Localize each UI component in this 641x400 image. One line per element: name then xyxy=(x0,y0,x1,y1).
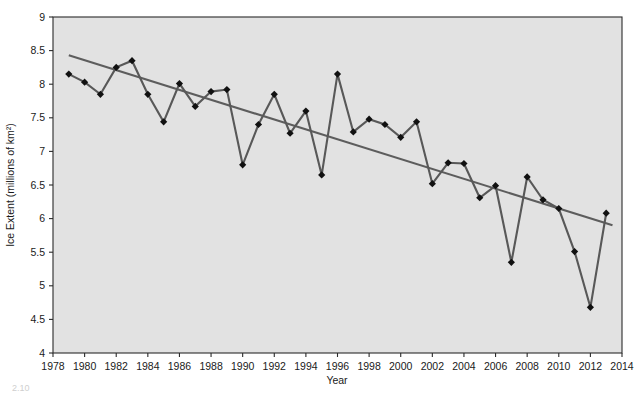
x-tick-label: 1994 xyxy=(294,360,318,372)
y-tick-label: 6 xyxy=(39,212,45,224)
y-tick-label: 5 xyxy=(39,279,45,291)
y-axis-title: Ice Extent (millions of km²) xyxy=(4,123,16,247)
x-tick-label: 1992 xyxy=(263,360,287,372)
chart-canvas: 44.555.566.577.588.59 197819801982198419… xyxy=(0,0,641,400)
y-tick-label: 4 xyxy=(39,347,45,359)
x-tick-label: 1984 xyxy=(136,360,160,372)
y-tick-label: 8.5 xyxy=(30,44,45,56)
y-tick-label: 7.5 xyxy=(30,111,45,123)
x-tick-label: 2004 xyxy=(452,360,476,372)
x-tick-label: 1998 xyxy=(357,360,381,372)
y-tick-label: 7 xyxy=(39,145,45,157)
x-tick-label: 1986 xyxy=(168,360,192,372)
x-tick-label: 1982 xyxy=(105,360,129,372)
x-tick-label: 2014 xyxy=(610,360,634,372)
x-tick-label: 1996 xyxy=(326,360,350,372)
x-tick-label: 2002 xyxy=(421,360,445,372)
y-tick-label: 9 xyxy=(39,11,45,23)
y-tick-label: 8 xyxy=(39,78,45,90)
x-tick-label: 2008 xyxy=(515,360,539,372)
y-tick-label: 5.5 xyxy=(30,246,45,258)
y-tick-label: 6.5 xyxy=(30,179,45,191)
x-tick-label: 1988 xyxy=(199,360,223,372)
ice-extent-chart-figure: 44.555.566.577.588.59 197819801982198419… xyxy=(0,0,641,400)
x-tick-label: 1980 xyxy=(73,360,97,372)
x-tick-label: 1978 xyxy=(41,360,65,372)
x-axis-title: Year xyxy=(326,374,348,386)
x-tick-label: 2000 xyxy=(389,360,413,372)
x-tick-label: 1990 xyxy=(231,360,255,372)
y-tick-label: 4.5 xyxy=(30,313,45,325)
footer-cut-off-text: 2.10 xyxy=(12,384,52,393)
x-tick-label: 2006 xyxy=(484,360,508,372)
x-tick-label: 2012 xyxy=(579,360,603,372)
plot-area-background xyxy=(53,17,622,353)
x-tick-label: 2010 xyxy=(547,360,571,372)
